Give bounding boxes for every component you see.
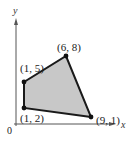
y-axis-arrow-icon [14,18,18,25]
coordinate-diagram: y x 0 (1, 2) (1, 5) (6, 8) (9, 1) [0,0,132,144]
vertex-label: (9, 1) [96,114,120,127]
vertex-point [22,106,27,111]
y-axis-label: y [12,5,18,16]
vertex-label: (1, 2) [20,112,44,125]
vertex-label: (1, 5) [20,62,44,75]
vertex-label: (6, 8) [57,41,81,54]
vertex-point [89,115,94,120]
origin-label: 0 [7,125,12,136]
vertex-point [64,54,69,59]
x-axis-label: x [120,119,126,130]
vertex-point [22,80,27,85]
